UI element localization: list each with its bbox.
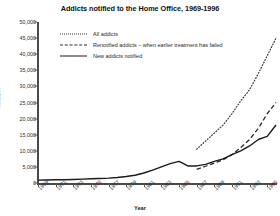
x-tick-mark	[91, 184, 92, 187]
legend-item-label: All addicts	[93, 31, 118, 37]
legend-line-swatch-dotted	[60, 30, 87, 37]
x-tick-mark	[38, 184, 39, 187]
legend-item: New addicts notified	[60, 50, 223, 61]
x-tick-mark	[179, 184, 180, 187]
x-tick-mark	[144, 184, 145, 187]
x-tick-mark	[73, 184, 74, 187]
x-tick-mark	[109, 184, 110, 187]
series-line	[38, 125, 276, 180]
legend-item: All addicts	[60, 28, 223, 39]
x-tick-mark	[126, 184, 127, 187]
legend-item: Renotified addicts – when earlier treatm…	[60, 39, 223, 50]
x-tick-mark	[56, 184, 57, 187]
legend-item-label: New addicts notified	[93, 53, 142, 59]
series-line	[197, 103, 276, 170]
x-tick-mark	[250, 184, 251, 187]
x-axis-label: Year	[0, 205, 280, 211]
x-tick-mark	[214, 184, 215, 187]
x-tick-mark	[267, 184, 268, 187]
chart-container: Addicts notified to the Home Office, 196…	[0, 0, 280, 216]
chart-legend: All addictsRenotified addicts – when ear…	[60, 28, 223, 61]
legend-line-swatch-solid	[60, 52, 87, 59]
x-tick-mark	[232, 184, 233, 187]
x-tick-mark	[161, 184, 162, 187]
legend-line-swatch-dashed	[60, 41, 87, 48]
x-tick-mark	[197, 184, 198, 187]
legend-item-label: Renotified addicts – when earlier treatm…	[93, 42, 223, 48]
